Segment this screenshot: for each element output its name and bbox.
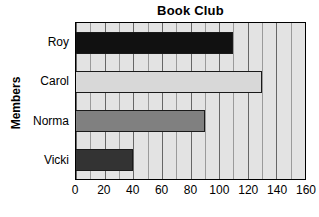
y-axis-tick-label: Roy (22, 22, 72, 62)
bar-chart: Book Club Members RoyCarolNormaVicki 020… (0, 0, 319, 217)
bar-slot (76, 101, 305, 140)
x-axis-tick-labels: 020406080100120140160 (75, 182, 306, 202)
bar-vicki[interactable] (76, 149, 133, 171)
gridline-major (305, 23, 306, 179)
x-axis-tick-label: 60 (155, 182, 168, 198)
bar-slot (76, 140, 305, 179)
chart-title: Book Club (75, 2, 306, 20)
x-axis-tick-label: 100 (209, 182, 229, 198)
bars-layer (76, 23, 305, 179)
bar-norma[interactable] (76, 110, 205, 132)
y-axis-tick-labels: RoyCarolNormaVicki (22, 22, 72, 180)
y-axis-tick-label: Vicki (22, 141, 72, 181)
x-axis-tick-label: 80 (184, 182, 197, 198)
x-axis-tick-label: 120 (238, 182, 258, 198)
bar-carol[interactable] (76, 71, 262, 93)
y-axis-tick-label: Norma (22, 101, 72, 141)
x-axis-tick-label: 40 (126, 182, 139, 198)
y-axis-tick-label: Carol (22, 62, 72, 102)
x-axis-tick-label: 0 (72, 182, 79, 198)
x-axis-tick-label: 20 (97, 182, 110, 198)
bar-slot (76, 23, 305, 62)
x-axis-tick-label: 160 (296, 182, 316, 198)
x-axis-tick-label: 140 (267, 182, 287, 198)
plot-area (75, 22, 306, 180)
bar-slot (76, 62, 305, 101)
bar-roy[interactable] (76, 32, 233, 54)
